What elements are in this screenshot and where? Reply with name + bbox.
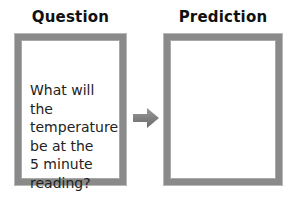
question-text: What will the temperature be at the 5 mi… (30, 81, 120, 192)
question-box: What will the temperature be at the 5 mi… (15, 34, 126, 185)
prediction-title: Prediction (164, 8, 282, 26)
question-title: Question (15, 8, 126, 26)
right-arrow-icon (133, 108, 159, 128)
prediction-box (164, 34, 282, 185)
